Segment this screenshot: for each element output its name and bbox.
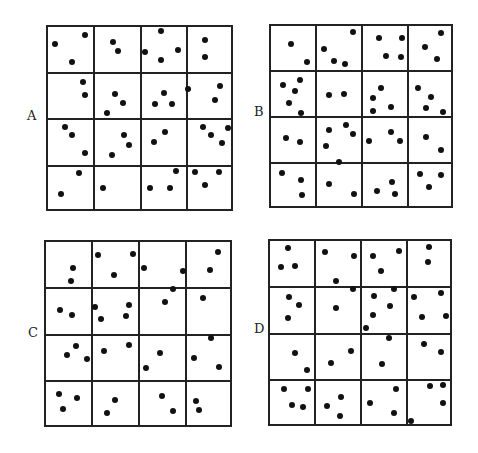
point-dot — [376, 35, 382, 41]
point-dot — [68, 278, 74, 284]
point-dot — [180, 268, 186, 274]
point-dot — [283, 135, 289, 141]
point-dot — [212, 97, 218, 103]
point-dot — [391, 410, 397, 416]
point-dot — [120, 100, 126, 106]
point-dot — [333, 278, 339, 284]
point-dot — [342, 61, 348, 67]
point-dot — [208, 132, 214, 138]
point-dot — [443, 313, 449, 319]
point-dot — [378, 85, 384, 91]
point-dot — [202, 54, 208, 60]
point-dot — [109, 152, 115, 158]
point-dot — [333, 305, 339, 311]
point-dot — [350, 286, 356, 292]
point-dot — [52, 41, 58, 47]
point-dot — [158, 57, 164, 63]
point-dot — [56, 391, 62, 397]
point-dot — [370, 95, 376, 101]
point-dot — [126, 342, 132, 348]
point-dot — [297, 77, 303, 83]
point-dot — [126, 302, 132, 308]
point-dot — [200, 124, 206, 130]
point-dot — [278, 264, 284, 270]
point-dot — [64, 352, 70, 358]
point-dot — [323, 143, 329, 149]
point-dot — [286, 294, 292, 300]
point-dot — [130, 251, 136, 257]
point-dot — [216, 169, 222, 175]
point-dot — [123, 313, 129, 319]
point-dot — [440, 382, 446, 388]
point-dot — [298, 110, 304, 116]
point-dot — [374, 188, 380, 194]
point-dot — [193, 398, 199, 404]
point-dot — [162, 129, 168, 135]
point-dot — [169, 101, 175, 107]
point-dot — [69, 132, 75, 138]
point-dot — [304, 367, 310, 373]
panel-label-c: C — [28, 326, 38, 339]
point-dot — [391, 286, 397, 292]
point-dot — [415, 85, 421, 91]
point-dot — [100, 185, 106, 191]
point-dot — [147, 185, 153, 191]
grid-col-divider — [361, 26, 363, 206]
point-dot — [151, 139, 157, 145]
point-dot — [411, 294, 417, 300]
point-dot — [386, 335, 392, 341]
point-dot — [392, 191, 398, 197]
point-dot — [434, 56, 440, 62]
point-dot — [393, 386, 399, 392]
point-dot — [423, 134, 429, 140]
point-dot — [398, 54, 404, 60]
point-dot — [348, 348, 354, 354]
point-dot — [82, 150, 88, 156]
point-dot — [321, 46, 327, 52]
point-dot — [73, 343, 79, 349]
point-dot — [351, 253, 357, 259]
panel-label-a: A — [27, 109, 36, 122]
point-dot — [289, 402, 295, 408]
point-dot — [69, 312, 75, 318]
point-dot — [328, 360, 334, 366]
point-dot — [351, 191, 357, 197]
point-dot — [387, 303, 393, 309]
point-dot — [292, 350, 298, 356]
point-dot — [192, 169, 198, 175]
point-dot — [438, 349, 444, 355]
point-dot — [104, 410, 110, 416]
point-dot — [69, 59, 75, 65]
point-dot — [57, 307, 63, 313]
point-dot — [280, 82, 286, 88]
point-dot — [175, 47, 181, 53]
point-dot — [370, 108, 376, 114]
point-dot — [322, 249, 328, 255]
point-dot — [216, 364, 222, 370]
point-dot — [207, 267, 213, 273]
point-dot — [397, 138, 403, 144]
point-dot — [305, 386, 311, 392]
point-dot — [98, 316, 104, 322]
panel-label-d: D — [254, 322, 264, 335]
point-dot — [82, 32, 88, 38]
point-dot — [112, 397, 118, 403]
grid-col-divider — [140, 27, 142, 209]
point-dot — [80, 79, 86, 85]
grid-col-divider — [186, 27, 188, 209]
point-dot — [326, 92, 332, 98]
point-dot — [371, 293, 377, 299]
point-dot — [331, 58, 337, 64]
grid-col-divider — [315, 26, 317, 206]
point-dot — [101, 348, 107, 354]
point-dot — [158, 28, 164, 34]
point-dot — [408, 418, 414, 424]
point-dot — [399, 35, 405, 41]
point-dot — [326, 127, 332, 133]
point-dot — [341, 91, 347, 97]
point-dot — [95, 252, 101, 258]
point-dot — [281, 386, 287, 392]
point-dot — [225, 125, 231, 131]
point-dot — [121, 132, 127, 138]
point-dot — [423, 105, 429, 111]
